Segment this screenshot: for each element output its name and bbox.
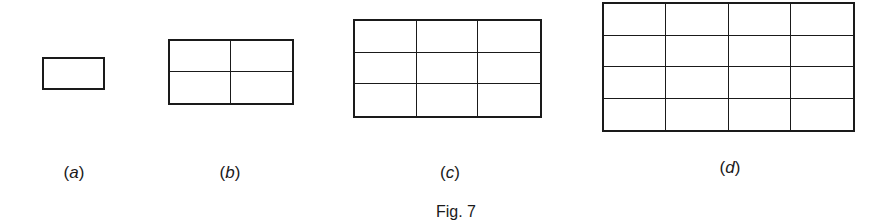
- grid-cell: [604, 36, 666, 68]
- grid-cell: [478, 21, 540, 53]
- grid-cell: [791, 99, 853, 131]
- grid-cell: [791, 4, 853, 36]
- figure-caption: Fig. 7: [436, 203, 476, 221]
- grid-cell: [170, 72, 231, 103]
- grid-cell: [478, 53, 540, 85]
- grid-cell: [231, 72, 292, 103]
- panel-label-b: (b): [220, 163, 241, 183]
- panel-label-c: (c): [440, 163, 460, 183]
- grid-panel-c: [353, 19, 542, 118]
- grid-cell: [231, 41, 292, 72]
- grid-cell: [44, 59, 103, 88]
- grid-cell: [729, 67, 791, 99]
- panel-label-d: (d): [720, 158, 741, 178]
- grid-cell: [666, 67, 728, 99]
- grid-panel-d: [602, 2, 855, 132]
- grid-cell: [604, 99, 666, 131]
- grid-cell: [355, 53, 417, 85]
- grid-cell: [729, 4, 791, 36]
- grid-cell: [170, 41, 231, 72]
- grid-cell: [478, 84, 540, 116]
- grid-panel-b: [168, 39, 294, 105]
- grid-cell: [666, 99, 728, 131]
- grid-panel-a: [42, 57, 105, 90]
- grid-cell: [729, 99, 791, 131]
- grid-cell: [791, 36, 853, 68]
- grid-cell: [355, 84, 417, 116]
- grid-cell: [604, 4, 666, 36]
- grid-cell: [604, 67, 666, 99]
- grid-cell: [666, 4, 728, 36]
- grid-cell: [417, 21, 479, 53]
- grid-cell: [666, 36, 728, 68]
- panel-label-a: (a): [64, 163, 85, 183]
- grid-cell: [791, 67, 853, 99]
- grid-cell: [417, 53, 479, 85]
- grid-cell: [417, 84, 479, 116]
- grid-cell: [355, 21, 417, 53]
- grid-cell: [729, 36, 791, 68]
